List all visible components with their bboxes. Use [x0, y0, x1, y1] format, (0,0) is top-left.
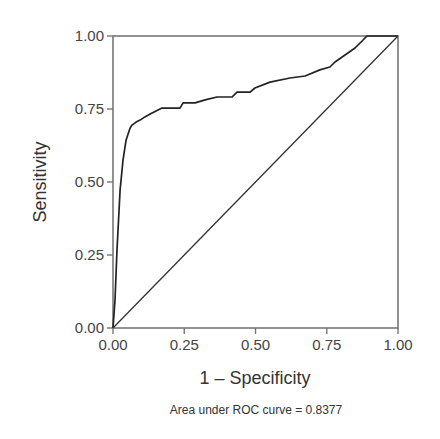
x-tick-label: 0.25 [170, 336, 199, 353]
x-tick-label: 0.75 [312, 336, 341, 353]
reference-diagonal [113, 36, 398, 328]
y-axis-ticks: 0.000.250.500.751.00 [75, 27, 113, 336]
y-tick-label: 0.75 [75, 100, 104, 117]
y-tick-label: 0.50 [75, 173, 104, 190]
y-tick-label: 1.00 [75, 27, 104, 44]
x-axis-ticks: 0.000.250.500.751.00 [98, 328, 412, 353]
x-axis-title: 1 – Specificity [199, 368, 310, 388]
y-tick-label: 0.25 [75, 246, 104, 263]
roc-chart: 0.000.250.500.751.00 0.000.250.500.751.0… [0, 0, 440, 439]
y-tick-label: 0.00 [75, 319, 104, 336]
plot-lines [113, 36, 398, 328]
x-tick-label: 0.00 [98, 336, 127, 353]
y-axis-title: Sensitivity [30, 141, 50, 222]
auc-caption: Area under ROC curve = 0.8377 [170, 403, 343, 417]
x-tick-label: 1.00 [383, 336, 412, 353]
x-tick-label: 0.50 [241, 336, 270, 353]
